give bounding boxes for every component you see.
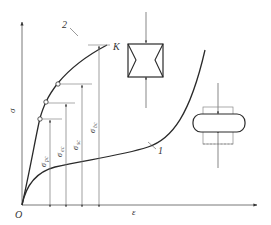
svg-text:pc: pc [43, 156, 49, 163]
point-sc [56, 82, 60, 86]
point-ec [44, 100, 48, 104]
label-sigma-sc: σ sc [71, 140, 81, 150]
label-sigma-ec: σ ec [55, 146, 65, 157]
plastic-specimen-icon [193, 83, 245, 168]
svg-text:ec: ec [59, 146, 65, 152]
curve-2-label: 2 [62, 19, 67, 30]
x-axis-label: ε [132, 207, 136, 217]
stress-strain-diagram: O σ ε σ pc σ ec σ sc σ bc 2 K 1 [0, 0, 271, 225]
brittle-specimen-icon [128, 12, 163, 108]
label-sigma-bc: σ bc [88, 122, 98, 133]
svg-text:bc: bc [92, 122, 98, 128]
origin-label: O [15, 209, 22, 220]
svg-text:sc: sc [75, 140, 81, 145]
curve-1-label: 1 [158, 145, 163, 156]
curve-2-end-label: K [112, 41, 121, 52]
curve-2-leader [70, 28, 78, 36]
label-sigma-pc: σ pc [39, 156, 49, 167]
curve-1 [22, 50, 205, 205]
reference-lines [42, 45, 110, 119]
y-axis-label: σ [7, 108, 17, 113]
curve-1-leader [148, 142, 156, 149]
point-pc [38, 117, 42, 121]
